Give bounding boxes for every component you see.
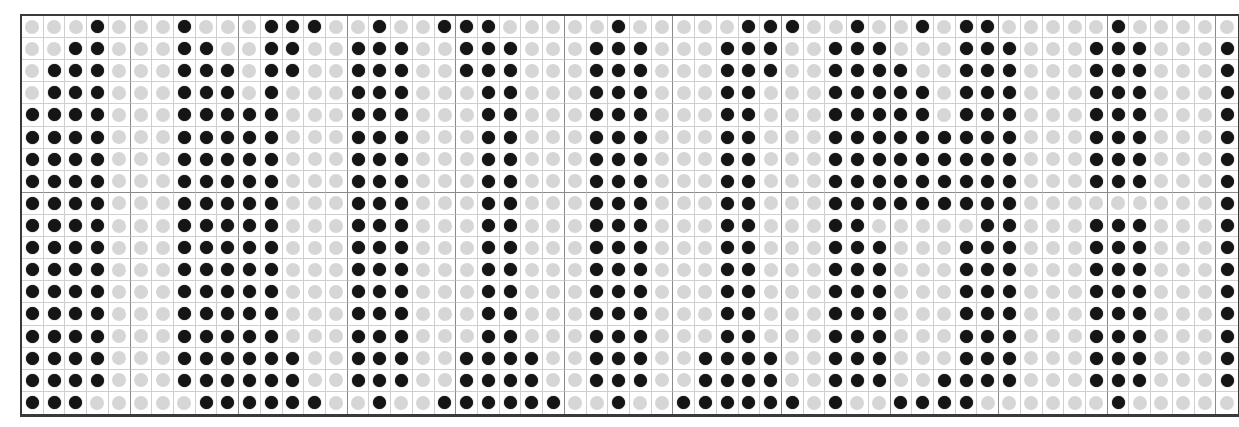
filled-dot <box>265 263 278 276</box>
filled-dot <box>482 374 495 387</box>
empty-dot <box>785 152 799 166</box>
grid-cell <box>326 127 348 149</box>
grid-cell <box>1064 16 1086 38</box>
grid-cell <box>977 171 999 193</box>
grid-cell <box>652 193 674 215</box>
empty-dot <box>221 42 235 56</box>
empty-dot <box>698 130 712 144</box>
grid-cell <box>196 104 218 126</box>
grid-cell <box>1086 104 1108 126</box>
filled-dot <box>721 197 734 210</box>
grid-cell <box>456 281 478 303</box>
grid-cell <box>869 104 891 126</box>
filled-dot <box>221 285 234 298</box>
filled-dot <box>200 307 213 320</box>
filled-dot <box>69 285 82 298</box>
grid-cell <box>1129 259 1151 281</box>
grid-cell <box>717 38 739 60</box>
filled-dot <box>1221 42 1234 55</box>
grid-cell <box>804 171 826 193</box>
empty-dot <box>329 285 343 299</box>
grid-cell <box>1064 281 1086 303</box>
grid-cell <box>22 60 44 82</box>
grid-cell <box>673 149 695 171</box>
grid-cell <box>912 392 934 414</box>
grid-cell <box>217 104 239 126</box>
grid-cell <box>934 392 956 414</box>
grid-cell <box>152 149 174 171</box>
filled-dot <box>1133 374 1146 387</box>
grid-cell <box>608 237 630 259</box>
filled-dot <box>243 153 256 166</box>
grid-cell <box>543 303 565 325</box>
grid-cell <box>65 60 87 82</box>
filled-dot <box>525 352 538 365</box>
grid-cell <box>44 348 66 370</box>
filled-dot <box>699 396 712 409</box>
filled-dot <box>352 219 365 232</box>
grid-cell <box>739 281 761 303</box>
filled-dot <box>221 307 234 320</box>
grid-cell <box>1108 281 1130 303</box>
grid-cell <box>1195 104 1217 126</box>
grid-cell <box>478 281 500 303</box>
empty-dot <box>525 263 539 277</box>
grid-cell <box>326 281 348 303</box>
grid-cell <box>348 215 370 237</box>
filled-dot <box>590 108 603 121</box>
grid-cell <box>22 16 44 38</box>
grid-cell <box>956 348 978 370</box>
grid-cell <box>348 16 370 38</box>
grid-cell <box>804 237 826 259</box>
empty-dot <box>112 329 126 343</box>
grid-cell <box>413 60 435 82</box>
grid-cell <box>847 326 869 348</box>
empty-dot <box>1024 20 1038 34</box>
filled-dot <box>1003 285 1016 298</box>
filled-dot <box>612 241 625 254</box>
grid-cell <box>174 82 196 104</box>
empty-dot <box>568 130 582 144</box>
grid-cell <box>196 281 218 303</box>
grid-cell <box>891 104 913 126</box>
grid-cell <box>391 237 413 259</box>
empty-dot <box>308 42 322 56</box>
grid-cell <box>1021 149 1043 171</box>
filled-dot <box>373 153 386 166</box>
empty-dot <box>1068 241 1082 255</box>
grid-cell <box>521 171 543 193</box>
empty-dot <box>1198 152 1212 166</box>
filled-dot <box>1090 307 1103 320</box>
empty-dot <box>568 108 582 122</box>
grid-cell <box>456 370 478 392</box>
grid-cell <box>934 193 956 215</box>
grid-cell <box>739 127 761 149</box>
empty-dot <box>785 307 799 321</box>
filled-dot <box>590 86 603 99</box>
grid-cell <box>283 60 305 82</box>
grid-cell <box>587 193 609 215</box>
grid-cell <box>717 149 739 171</box>
empty-dot <box>1068 263 1082 277</box>
grid-cell <box>500 127 522 149</box>
filled-dot <box>612 175 625 188</box>
empty-dot <box>416 219 430 233</box>
grid-cell <box>825 326 847 348</box>
grid-cell <box>521 370 543 392</box>
filled-dot <box>960 285 973 298</box>
grid-cell <box>1216 392 1238 414</box>
grid-cell <box>239 303 261 325</box>
grid-cell <box>587 60 609 82</box>
grid-cell <box>1173 171 1195 193</box>
filled-dot <box>178 352 191 365</box>
grid-cell <box>326 82 348 104</box>
filled-dot <box>634 153 647 166</box>
grid-cell <box>587 38 609 60</box>
empty-dot <box>850 396 864 410</box>
empty-dot <box>568 263 582 277</box>
empty-dot <box>764 263 778 277</box>
filled-dot <box>482 352 495 365</box>
grid-cell <box>717 215 739 237</box>
filled-dot <box>525 396 538 409</box>
empty-dot <box>1068 152 1082 166</box>
